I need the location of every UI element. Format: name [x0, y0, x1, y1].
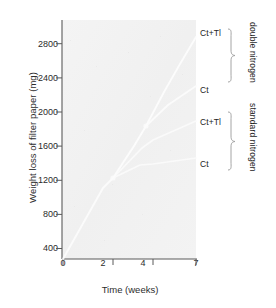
branch-point-week2: [110, 175, 115, 180]
plot-background: [62, 20, 196, 259]
branch-point-week4: [143, 123, 148, 128]
y-axis-ticks: [56, 44, 62, 249]
brace-double-nitrogen: [228, 29, 235, 82]
chart-figure: Weight loss of filter paper (mg) 400 800…: [0, 0, 276, 308]
brace-standard-nitrogen: [228, 112, 235, 170]
chart-svg: [0, 0, 276, 308]
x-axis-ticks: [63, 259, 196, 265]
